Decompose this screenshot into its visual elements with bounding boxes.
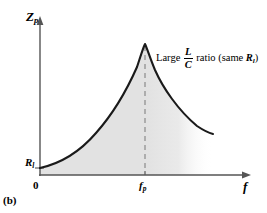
figure-container: Zp f 0 Rl fp Large L C ratio (same Rl) (…: [0, 0, 267, 213]
x-axis-arrowhead: [242, 172, 251, 179]
y-tick-label-rl: Rl: [25, 157, 34, 168]
x-tick-label-fp: fp: [139, 180, 146, 191]
curve-annotation: Large L C ratio (same Rl): [156, 47, 258, 70]
annotation-symbol: R: [246, 52, 253, 63]
y-axis-label-subscript: p: [34, 15, 38, 25]
origin-label: 0: [33, 180, 39, 191]
annotation-symbol-subscript: l: [253, 57, 255, 65]
y-axis-label-symbol: Z: [26, 9, 34, 24]
annotation-symbol-group: Rl): [246, 53, 259, 64]
annotation-prefix: Large: [156, 53, 180, 64]
resonance-curve-plot: [0, 0, 267, 213]
fraction-denominator: C: [184, 59, 193, 70]
y-axis-label: Zp: [26, 10, 38, 23]
x-axis-label: f: [243, 180, 247, 193]
fp-subscript: p: [143, 184, 147, 193]
fraction-numerator: L: [184, 47, 192, 58]
annotation-suffix: ): [255, 52, 259, 63]
annotation-middle: ratio (same: [196, 53, 243, 64]
panel-label: (b): [3, 195, 16, 206]
lc-ratio-fraction: L C: [184, 47, 193, 70]
